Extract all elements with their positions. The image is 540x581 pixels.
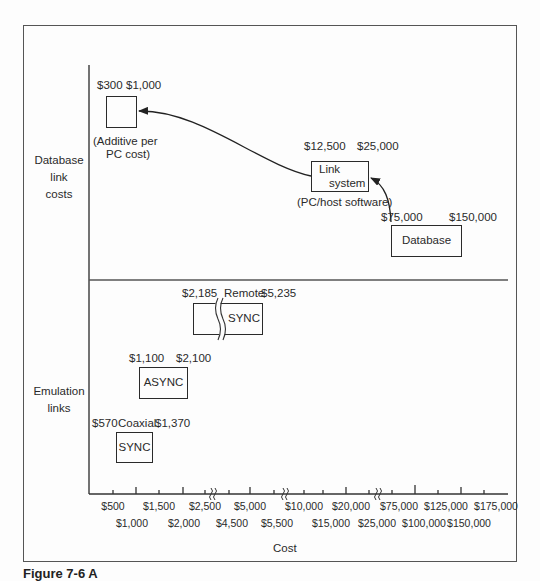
x-tick-label: $2,500 [189,500,221,512]
x-tick-label: $5,000 [234,500,266,512]
x-axis-label: Cost [273,542,297,555]
x-tick-label: $500 [101,500,124,512]
coaxial-sync-tag: Coaxial [118,417,156,430]
x-tick-label: $25,000 [358,517,396,529]
x-tick-label: $75,000 [380,500,418,512]
x-tick-label: $5,500 [261,517,293,529]
x-tick-label: $100,000 [402,517,446,529]
coaxial-sync-low-cost: $570 [92,417,118,430]
x-tick-label: $150,000 [447,517,491,529]
async-low-cost: $1,100 [129,352,164,365]
x-tick-label: $4,500 [216,517,248,529]
x-tick-label: $175,000 [474,500,518,512]
x-tick-label: $2,000 [168,517,200,529]
x-tick-label: $10,000 [285,500,323,512]
coaxial-sync-high-cost: $1,370 [155,417,190,430]
x-tick-label: $1,500 [143,500,175,512]
async-high-cost: $2,100 [176,352,211,365]
coaxial-sync-box: SYNC [116,432,153,463]
x-tick-label: $125,000 [424,500,468,512]
async-text: ASYNC [144,376,184,388]
coaxial-sync-text: SYNC [119,441,151,453]
figure-caption: Figure 7-6 A [23,566,98,581]
x-tick-label: $20,000 [332,500,370,512]
async-box: ASYNC [139,367,188,399]
x-tick-label: $15,000 [312,517,350,529]
x-tick-label: $1,000 [116,517,148,529]
